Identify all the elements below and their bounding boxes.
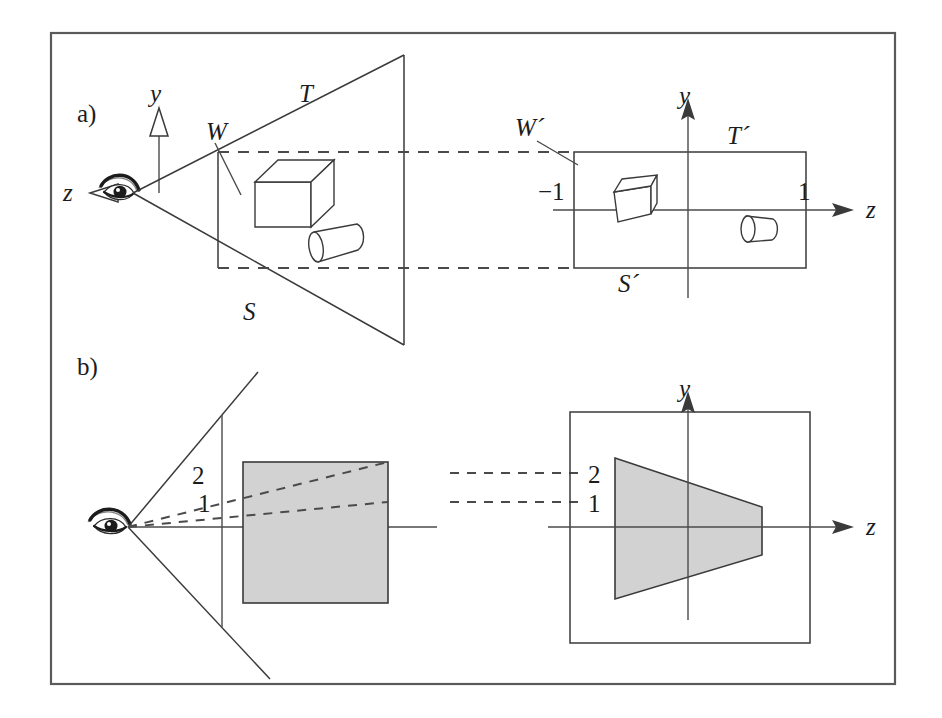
gray-square-shape bbox=[243, 462, 388, 603]
canonical-near-label: W´ bbox=[515, 114, 545, 141]
canonical-bottom-label: S´ bbox=[618, 270, 640, 297]
panel-a-z-axis-label: z bbox=[62, 179, 73, 206]
panel-a-y-axis-label: y bbox=[147, 80, 162, 107]
cube-shape bbox=[255, 160, 334, 227]
panel-a-right-scene: z y −1 1 T´ S´ W´ bbox=[515, 82, 876, 298]
panel-b-right-scene: z y 2 1 bbox=[548, 375, 876, 643]
eye-icon bbox=[88, 509, 130, 533]
panel-a-label: a) bbox=[77, 100, 96, 128]
panel-a-y-axis-arrowhead-icon bbox=[150, 108, 168, 136]
panel-a-left-scene: y z bbox=[62, 55, 404, 345]
cube-shape-transformed bbox=[614, 175, 657, 222]
tick-label-one: 1 bbox=[798, 178, 811, 205]
panel-a-right-z-axis-label: z bbox=[865, 196, 876, 223]
panel-b-right-y-axis-label: y bbox=[676, 375, 691, 402]
panel-a: a) y z bbox=[62, 55, 876, 345]
canonical-top-label: T´ bbox=[727, 122, 750, 149]
frustum-top-label: T bbox=[299, 80, 315, 107]
panel-b-left-scene: 2 1 bbox=[88, 372, 437, 679]
panel-b-right-z-axis-label: z bbox=[865, 513, 876, 540]
frustum-near-label: W bbox=[206, 118, 229, 145]
panel-a-right-y-axis-label: y bbox=[676, 82, 691, 109]
panel-b-right-ray-label-1: 1 bbox=[588, 490, 601, 517]
figure-root: a) y z bbox=[0, 0, 942, 718]
panel-b-left-ray-label-1: 1 bbox=[198, 490, 211, 517]
panel-b-left-ray-label-2: 2 bbox=[192, 462, 205, 489]
frustum-bottom-label: S bbox=[243, 298, 256, 325]
panel-b-right-ray-label-2: 2 bbox=[588, 461, 601, 488]
cone-shape bbox=[307, 224, 364, 263]
panel-b-label: b) bbox=[77, 353, 98, 381]
panel-b-ray-top bbox=[128, 372, 258, 527]
panel-b: b) bbox=[77, 353, 876, 679]
tick-label-minus-one: −1 bbox=[538, 178, 565, 205]
cone-shape-transformed bbox=[741, 216, 777, 242]
perspective-projection-diagram: a) y z bbox=[0, 0, 942, 718]
near-plane-leader-line bbox=[215, 143, 241, 195]
figure-outer-frame bbox=[51, 33, 895, 684]
